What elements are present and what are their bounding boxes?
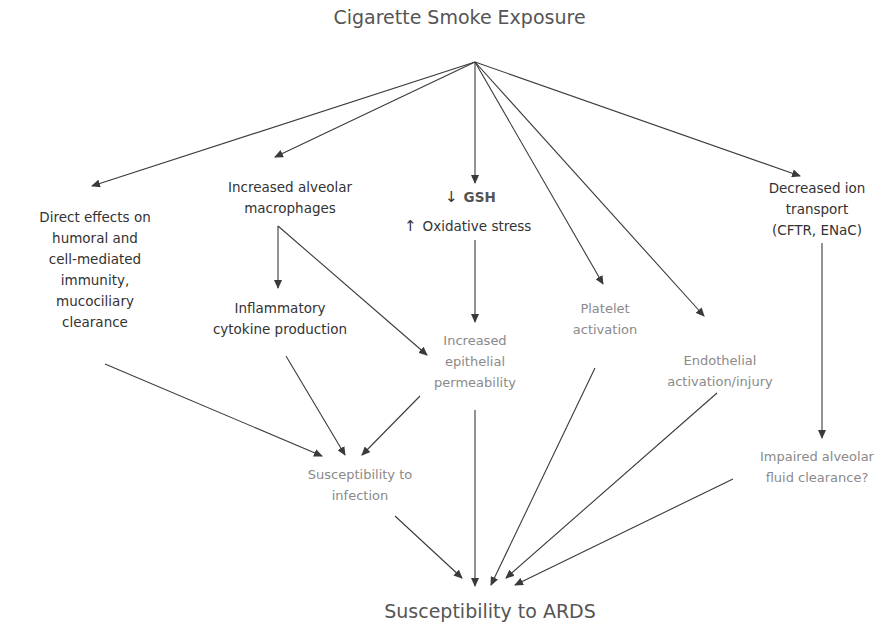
node-increased-alveolar-macrophages: Increased alveolar macrophages [205, 177, 375, 219]
arrow-down-icon: ↓ [445, 187, 458, 208]
arrow-up-icon: ↑ [404, 216, 417, 237]
node-text-line: macrophages [205, 198, 375, 219]
node-text-line: Impaired alveolar [747, 446, 887, 467]
node-text-line: infection [290, 485, 430, 506]
title-text: Cigarette Smoke Exposure [333, 6, 585, 28]
node-endothelial-activation-injury: Endothelial activation/injury [655, 350, 785, 392]
node-text-line: mucociliary [20, 291, 170, 312]
arrow-edge [506, 393, 717, 578]
node-decreased-ion-transport: Decreased ion transport (CFTR, ENaC) [752, 178, 882, 241]
node-text-line: cell-mediated [20, 249, 170, 270]
arrow-edge [286, 356, 345, 455]
node-gsh: ↓GSH [445, 187, 525, 208]
node-cigarette-smoke-exposure: Cigarette Smoke Exposure [0, 5, 887, 29]
arrow-edge [475, 62, 800, 176]
node-text-line: transport [752, 199, 882, 220]
node-text-line: cytokine production [190, 319, 370, 340]
arrow-edge [395, 516, 462, 578]
node-inflammatory-cytokine-production: Inflammatory cytokine production [190, 298, 370, 340]
node-text-line: immunity, [20, 270, 170, 291]
node-susceptibility-to-ards: Susceptibility to ARDS [380, 599, 600, 623]
oxidative-stress-label: Oxidative stress [423, 218, 532, 234]
node-text-line: fluid clearance? [747, 467, 887, 488]
arrow-edge [275, 62, 475, 157]
gsh-label: GSH [464, 189, 496, 205]
node-increased-epithelial-permeability: Increased epithelial permeability [420, 330, 530, 393]
arrow-edge [362, 396, 420, 455]
arrow-edge [491, 368, 595, 585]
node-text-line: permeability [420, 372, 530, 393]
outcome-text: Susceptibility to ARDS [384, 600, 596, 622]
arrow-edge [475, 62, 603, 284]
node-text-line: Endothelial [655, 350, 785, 371]
node-oxidative-stress: ↑Oxidative stress [404, 216, 564, 237]
node-text-line: epithelial [420, 351, 530, 372]
node-text-line: Platelet [555, 298, 655, 319]
node-text-line: activation [555, 319, 655, 340]
node-text-line: clearance [20, 312, 170, 333]
node-platelet-activation: Platelet activation [555, 298, 655, 340]
node-text-line: Susceptibility to [290, 464, 430, 485]
node-text-line: Direct effects on [20, 207, 170, 228]
node-direct-effects: Direct effects on humoral and cell-media… [20, 207, 170, 333]
node-text-line: Decreased ion [752, 178, 882, 199]
node-impaired-alveolar-fluid-clearance: Impaired alveolar fluid clearance? [747, 446, 887, 488]
node-text-line: activation/injury [655, 371, 785, 392]
node-text-line: Inflammatory [190, 298, 370, 319]
node-text-line: (CFTR, ENaC) [752, 220, 882, 241]
node-text-line: humoral and [20, 228, 170, 249]
node-text-line: Increased [420, 330, 530, 351]
node-text-line: Increased alveolar [205, 177, 375, 198]
arrow-edge [92, 62, 475, 186]
node-susceptibility-to-infection: Susceptibility to infection [290, 464, 430, 506]
arrow-edge [515, 479, 733, 585]
arrow-edge [105, 364, 322, 456]
